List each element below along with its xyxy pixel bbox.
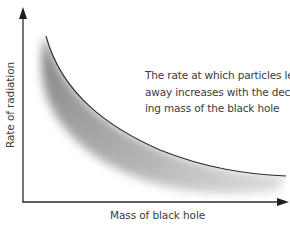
annotation-line-2: away increases with the decreas- (145, 84, 290, 101)
x-axis-arrowhead-icon (277, 198, 289, 206)
y-axis-arrowhead-icon (19, 7, 27, 19)
curve-annotation: The rate at which particles leak away in… (145, 67, 290, 117)
x-axis-label: Mass of black hole (110, 209, 205, 221)
y-axis-label: Rate of radiation (4, 62, 16, 148)
annotation-line-1: The rate at which particles leak (145, 67, 290, 84)
y-axis (19, 7, 27, 203)
x-axis (23, 198, 290, 206)
annotation-line-3: ing mass of the black hole (145, 100, 290, 117)
